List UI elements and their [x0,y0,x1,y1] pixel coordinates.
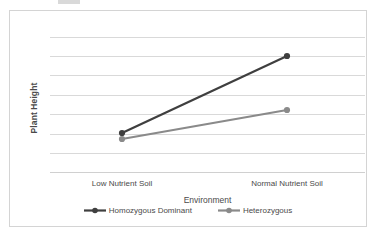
legend-label-homozygous-dominant: Homozygous Dominant [109,206,192,215]
x-tick-label-normal-nutrient-soil: Normal Nutrient Soil [222,179,352,188]
legend-marker-icon [84,206,106,215]
series-plot [50,37,365,173]
data-point-heterozygous-low [119,136,125,142]
chart-screenshot: Plant Height Low Nutrient Soil Normal Nu… [0,0,376,238]
legend-item-heterozygous[interactable]: Heterozygous [218,206,292,215]
x-axis-title: Environment [50,195,365,205]
data-point-heterozygous-normal [284,107,290,113]
plot-area [50,37,365,173]
series-heterozygous [119,107,290,142]
capture-artifact [58,0,80,4]
legend-item-homozygous-dominant[interactable]: Homozygous Dominant [84,206,192,215]
series-line-homozygous-dominant [122,56,287,133]
legend-marker-icon [218,206,240,215]
x-tick-label-low-nutrient-soil: Low Nutrient Soil [62,179,182,188]
chart-legend: Homozygous Dominant Heterozygous [9,206,367,215]
data-point-homozygous-dominant-low [119,130,125,136]
series-line-heterozygous [122,110,287,139]
data-point-homozygous-dominant-normal [284,53,290,59]
legend-label-heterozygous: Heterozygous [243,206,292,215]
chart-frame: Plant Height Low Nutrient Soil Normal Nu… [9,10,367,227]
y-axis-title: Plant Height [27,63,41,153]
